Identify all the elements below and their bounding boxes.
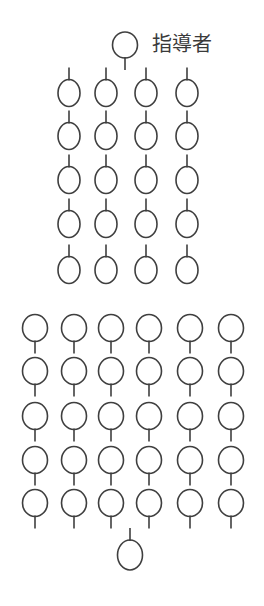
upper-group-person xyxy=(58,111,80,150)
lower-group-person xyxy=(178,447,203,486)
person-head-icon xyxy=(23,315,48,342)
upper-group-person xyxy=(135,68,157,107)
lower-group-person xyxy=(137,358,162,397)
upper-group-person xyxy=(135,155,157,194)
lower-group-person xyxy=(99,403,124,442)
lower-group-person xyxy=(137,447,162,486)
person-head-icon xyxy=(137,447,162,474)
upper-group-person xyxy=(58,199,80,238)
lower-group-person xyxy=(178,315,203,354)
lower-group-person xyxy=(137,403,162,442)
person-head-icon xyxy=(219,403,244,430)
person-head-icon xyxy=(219,447,244,474)
upper-group-person xyxy=(95,68,117,107)
person-head-icon xyxy=(58,257,80,284)
person-head-icon xyxy=(135,211,157,238)
upper-group-person xyxy=(176,111,198,150)
lower-group-person xyxy=(62,358,87,397)
upper-group-person xyxy=(135,245,157,284)
bottom-person-figure xyxy=(118,528,143,570)
lower-group-person xyxy=(62,490,87,529)
upper-group-person xyxy=(176,199,198,238)
person-head-icon xyxy=(118,540,143,570)
person-head-icon xyxy=(135,257,157,284)
person-head-icon xyxy=(99,490,124,517)
lower-group-person xyxy=(219,447,244,486)
lower-group-person xyxy=(23,447,48,486)
instructor-figure xyxy=(113,32,138,70)
upper-group-person xyxy=(176,155,198,194)
person-head-icon xyxy=(113,32,138,58)
person-head-icon xyxy=(135,123,157,150)
person-head-icon xyxy=(178,447,203,474)
person-head-icon xyxy=(58,211,80,238)
person-head-icon xyxy=(135,167,157,194)
person-head-icon xyxy=(99,358,124,385)
person-head-icon xyxy=(137,315,162,342)
lower-group-person xyxy=(178,403,203,442)
upper-group-person xyxy=(176,245,198,284)
person-head-icon xyxy=(23,403,48,430)
bottom-person xyxy=(118,528,143,570)
person-head-icon xyxy=(62,447,87,474)
person-head-icon xyxy=(135,80,157,107)
person-head-icon xyxy=(137,490,162,517)
upper-group-person xyxy=(176,68,198,107)
lower-group-person xyxy=(23,358,48,397)
person-head-icon xyxy=(62,315,87,342)
upper-group-figures xyxy=(58,68,198,284)
lower-group-person xyxy=(23,403,48,442)
person-head-icon xyxy=(23,358,48,385)
person-head-icon xyxy=(95,80,117,107)
person-head-icon xyxy=(99,315,124,342)
upper-group-person xyxy=(135,199,157,238)
person-head-icon xyxy=(178,403,203,430)
person-head-icon xyxy=(23,490,48,517)
person-head-icon xyxy=(137,403,162,430)
lower-group-person xyxy=(99,447,124,486)
person-head-icon xyxy=(62,403,87,430)
person-head-icon xyxy=(62,358,87,385)
person-head-icon xyxy=(99,447,124,474)
lower-group-person xyxy=(62,447,87,486)
upper-group-person xyxy=(58,68,80,107)
upper-group-person xyxy=(95,155,117,194)
person-head-icon xyxy=(178,315,203,342)
person-head-icon xyxy=(99,403,124,430)
lower-group-person xyxy=(99,490,124,529)
upper-group-person xyxy=(95,111,117,150)
lower-group-person xyxy=(62,315,87,354)
lower-group-person xyxy=(178,490,203,529)
lower-group-person xyxy=(23,315,48,354)
person-head-icon xyxy=(95,211,117,238)
lower-group-person xyxy=(219,315,244,354)
lower-group-person xyxy=(99,358,124,397)
lower-group-person xyxy=(178,358,203,397)
upper-group-person xyxy=(58,155,80,194)
upper-group-person xyxy=(95,199,117,238)
person-head-icon xyxy=(95,123,117,150)
person-head-icon xyxy=(137,358,162,385)
upper-group-person xyxy=(135,111,157,150)
lower-group-person xyxy=(137,315,162,354)
person-head-icon xyxy=(176,211,198,238)
person-head-icon xyxy=(176,123,198,150)
person-head-icon xyxy=(176,167,198,194)
person-head-icon xyxy=(219,358,244,385)
instructor-person xyxy=(113,32,138,70)
person-head-icon xyxy=(58,80,80,107)
person-head-icon xyxy=(58,123,80,150)
upper-group-person xyxy=(95,245,117,284)
person-head-icon xyxy=(62,490,87,517)
lower-group-figures xyxy=(23,315,244,529)
instructor-label: 指導者 xyxy=(152,34,212,54)
lower-group-person xyxy=(23,490,48,529)
person-head-icon xyxy=(176,257,198,284)
upper-group-person xyxy=(58,245,80,284)
lower-group-person xyxy=(99,315,124,354)
person-head-icon xyxy=(178,490,203,517)
person-head-icon xyxy=(176,80,198,107)
person-head-icon xyxy=(219,315,244,342)
person-head-icon xyxy=(58,167,80,194)
seating-diagram xyxy=(0,0,264,606)
